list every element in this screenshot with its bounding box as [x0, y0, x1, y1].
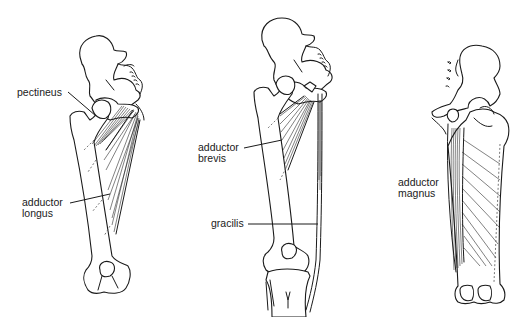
adductor-muscles-diagram: pectineus adductor longus adductor brevi… — [0, 0, 531, 317]
left-figure — [70, 36, 144, 294]
label-gracilis: gracilis — [211, 218, 244, 229]
right-figure — [432, 45, 509, 303]
right-pelvis — [432, 45, 500, 117]
label-pectineus: pectineus — [17, 87, 62, 98]
adductor-brevis-muscle — [280, 96, 314, 170]
diagram-artwork — [0, 0, 531, 317]
label-adductor-magnus: adductor magnus — [398, 177, 439, 199]
label-adductor-longus: adductor longus — [22, 197, 63, 219]
label-adductor-brevis: adductor brevis — [198, 142, 239, 164]
middle-femur — [254, 85, 309, 273]
middle-figure — [254, 18, 332, 317]
right-femur — [448, 109, 509, 304]
middle-tibia — [266, 269, 310, 317]
